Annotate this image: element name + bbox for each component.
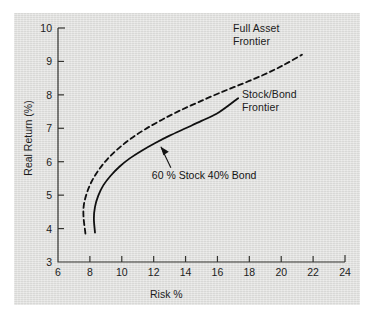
- y-tick-label: 9: [36, 55, 52, 67]
- x-tick-label: 8: [79, 266, 101, 278]
- x-tick-label: 24: [334, 266, 356, 278]
- series-line-2: [94, 98, 238, 232]
- y-tick-label: 6: [36, 156, 52, 168]
- annotation-arrow-head: [161, 147, 169, 156]
- series-label-stock-bond-frontier: Stock/Bond Frontier: [242, 88, 297, 113]
- x-axis-label: Risk %: [150, 288, 183, 300]
- y-tick-label: 3: [36, 256, 52, 268]
- axis-lines: [58, 28, 345, 262]
- figure: Real Return (%) Risk % Full Asset Fronti…: [0, 0, 373, 322]
- x-tick-label: 12: [143, 266, 165, 278]
- x-tick-label: 22: [302, 266, 324, 278]
- x-tick-label: 16: [206, 266, 228, 278]
- y-tick-label: 8: [36, 89, 52, 101]
- x-tick-label: 20: [270, 266, 292, 278]
- x-tick-label: 18: [238, 266, 260, 278]
- x-tick-label: 14: [175, 266, 197, 278]
- y-tick-label: 7: [36, 122, 52, 134]
- y-tick-label: 5: [36, 189, 52, 201]
- series-line-1: [83, 55, 302, 234]
- x-tick-label: 10: [111, 266, 133, 278]
- y-tick-label: 10: [36, 22, 52, 34]
- y-axis-label: Real Return (%): [22, 93, 34, 183]
- y-tick-label: 4: [36, 223, 52, 235]
- annotation-60-stock-40-bond: 60 % Stock 40% Bond: [152, 169, 256, 182]
- series-label-full-asset-frontier: Full Asset Frontier: [233, 22, 280, 47]
